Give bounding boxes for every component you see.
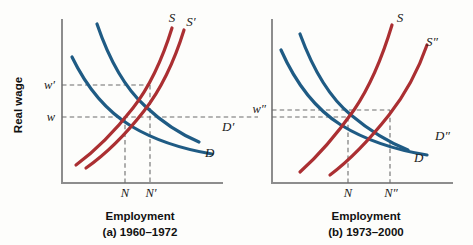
panel-a-supply-initial-curve — [76, 28, 172, 165]
panel-a-employment-tick-shifted: N′ — [144, 186, 156, 200]
y-axis-title: Real wage — [12, 77, 24, 133]
panel-a-wage-tick-shifted: w′ — [44, 78, 55, 92]
panel-b-supply-initial-curve — [300, 25, 392, 172]
panel-b-wage-tick-shifted: w″ — [252, 102, 266, 116]
panel-a-caption: (a) 1960–1972 — [103, 226, 178, 238]
figure-canvas: Real wage S S′ D′ D w′ w — [0, 0, 473, 245]
panel-a-x-axis-title: Employment — [105, 210, 174, 222]
labor-market-figure: Real wage S S′ D′ D w′ w — [0, 0, 473, 245]
panel-b-supply-shifted-label: S″ — [426, 34, 439, 49]
panel-b-caption: (b) 1973–2000 — [328, 226, 403, 238]
panel-b-demand-initial-label: D — [413, 150, 424, 165]
panel-a-supply-initial-label: S — [169, 10, 176, 25]
panel-a-demand-initial-label: D — [204, 145, 215, 160]
panel-a-employment-tick-initial: N — [120, 186, 130, 200]
panel-b: S S″ D″ D w″ N N″ Employment (b) 1973–20… — [252, 10, 452, 238]
panel-b-demand-shifted-label: D″ — [434, 128, 450, 143]
panel-b-x-axis-title: Employment — [331, 210, 400, 222]
panel-a-supply-shifted-label: S′ — [186, 14, 196, 29]
panel-b-employment-tick-shifted: N″ — [383, 186, 398, 200]
panel-b-demand-shifted-curve — [281, 50, 427, 155]
panel-a-wage-tick-initial: w — [47, 110, 56, 124]
panel-b-employment-tick-initial: N — [343, 186, 353, 200]
panel-a-demand-shifted-label: D′ — [221, 119, 234, 134]
panel-b-supply-initial-label: S — [397, 10, 404, 25]
panel-a: Real wage S S′ D′ D w′ w — [12, 10, 258, 238]
